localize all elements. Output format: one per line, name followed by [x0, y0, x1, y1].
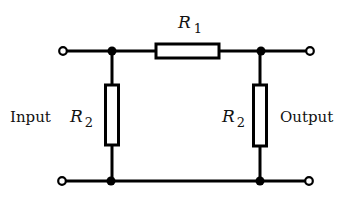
terminal-input-top [59, 47, 67, 55]
junction-bottom-right [256, 177, 265, 186]
terminal-output-bottom [305, 177, 313, 185]
r2-left-symbol: R [69, 106, 83, 126]
r1-subscript: 1 [194, 21, 202, 36]
pi-attenuator-circuit: Input R2 R1 R2 Output [0, 0, 349, 206]
resistor-r2-right [254, 85, 267, 146]
resistor-r1 [156, 44, 219, 58]
output-label: Output [280, 108, 333, 126]
r2-right-subscript: 2 [237, 115, 245, 130]
r2-left-subscript: 2 [85, 115, 93, 130]
r2-right-label: R2 [221, 106, 245, 130]
r2-right-symbol: R [221, 106, 235, 126]
terminal-output-top [306, 47, 314, 55]
terminal-input-bottom [58, 177, 66, 185]
r1-symbol: R [177, 12, 191, 32]
resistor-r2-left [106, 85, 119, 145]
junction-top-left [108, 47, 117, 56]
junction-bottom-left [107, 177, 116, 186]
junction-top-right [257, 47, 266, 56]
input-label: Input [10, 108, 51, 126]
r1-label: R1 [177, 12, 202, 36]
r2-left-label: R2 [69, 106, 93, 130]
